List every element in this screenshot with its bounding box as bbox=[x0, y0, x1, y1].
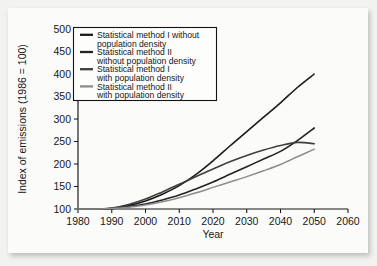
series-line-2 bbox=[78, 128, 314, 209]
chart-legend: Statistical method I withoutpopulation d… bbox=[74, 28, 217, 101]
y-tick-label: 250 bbox=[53, 135, 71, 147]
y-tick-label: 400 bbox=[53, 68, 71, 80]
figure-container: 100150200250300350400450500 198019902000… bbox=[0, 0, 377, 266]
y-axis-title: Index of emissions (1986 = 100) bbox=[16, 44, 28, 194]
y-tick-label: 200 bbox=[53, 158, 71, 170]
y-tick-label: 150 bbox=[53, 180, 71, 192]
x-tick-label: 1980 bbox=[66, 215, 90, 227]
x-tick-label: 2000 bbox=[134, 215, 158, 227]
x-tick-label: 1990 bbox=[100, 215, 124, 227]
x-axis-title: Year bbox=[202, 228, 224, 240]
x-tick-label: 2020 bbox=[201, 215, 225, 227]
chart-plot-wrapper: 100150200250300350400450500 198019902000… bbox=[0, 0, 377, 266]
x-tick-label: 2010 bbox=[168, 215, 192, 227]
y-tick-label: 100 bbox=[53, 203, 71, 215]
legend-label-4-line2: with population density bbox=[96, 90, 185, 100]
x-tick-label: 2050 bbox=[303, 215, 327, 227]
emissions-index-line-chart: 100150200250300350400450500 198019902000… bbox=[0, 0, 377, 266]
x-tick-label: 2030 bbox=[235, 215, 259, 227]
y-tick-label: 350 bbox=[53, 90, 71, 102]
x-axis-ticks: 198019902000201020202030204020502060 bbox=[66, 209, 360, 227]
y-tick-label: 450 bbox=[53, 45, 71, 57]
x-tick-label: 2040 bbox=[269, 215, 293, 227]
y-tick-label: 300 bbox=[53, 113, 71, 125]
x-tick-label: 2060 bbox=[336, 215, 360, 227]
series-line-4 bbox=[78, 149, 314, 209]
y-tick-label: 500 bbox=[53, 23, 71, 35]
